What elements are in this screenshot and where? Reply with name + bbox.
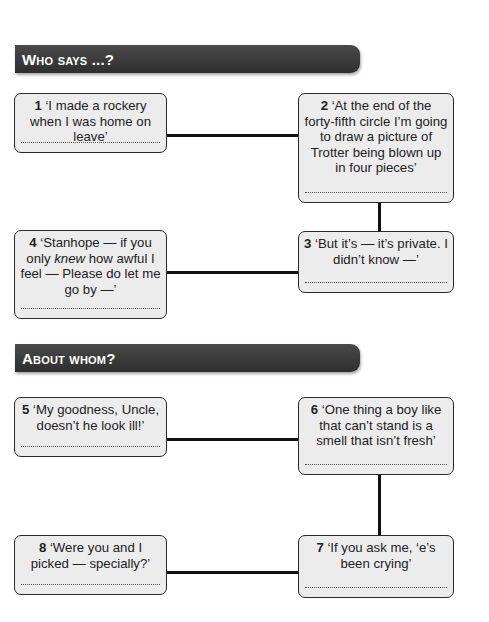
question-quote: ‘If you ask me, ‘e’s been crying’ [327, 540, 435, 571]
connector-2-3 [378, 201, 381, 232]
question-box-7: 7 ‘If you ask me, ‘e’s been crying’ [298, 535, 454, 598]
connector-3-4 [165, 271, 299, 274]
answer-line[interactable] [305, 464, 447, 465]
question-quote: ‘One thing a boy like that can’t stand i… [316, 402, 441, 448]
question-quote: ‘I made a rockery when I was home on lea… [30, 98, 151, 144]
question-number: 5 [22, 402, 29, 417]
question-number: 3 [304, 236, 311, 251]
question-quote: ‘My goodness, Uncle, doesn’t he look ill… [33, 402, 159, 433]
question-number: 8 [39, 540, 46, 555]
answer-line[interactable] [21, 308, 160, 309]
question-quote-italic: knew [54, 251, 85, 266]
question-box-5: 5 ‘My goodness, Uncle, doesn’t he look i… [14, 397, 167, 457]
connector-1-2 [165, 134, 299, 137]
answer-line[interactable] [305, 587, 447, 588]
question-number: 2 [321, 98, 328, 113]
question-number: 1 [34, 98, 41, 113]
section-title: About whom? [22, 350, 116, 367]
question-quote: ‘Were you and I picked — specially?’ [31, 540, 150, 571]
connector-6-7 [378, 473, 381, 536]
connector-7-8 [165, 571, 299, 574]
question-number: 7 [316, 540, 323, 555]
question-box-1: 1 ‘I made a rockery when I was home on l… [14, 93, 167, 153]
answer-line[interactable] [305, 282, 447, 283]
answer-line[interactable] [305, 192, 447, 193]
question-box-4: 4 ‘Stanhope — if you only knew how awful… [14, 230, 167, 319]
question-number: 6 [311, 402, 318, 417]
question-box-6: 6 ‘One thing a boy like that can’t stand… [298, 397, 454, 475]
question-box-8: 8 ‘Were you and I picked — specially?’ [14, 535, 167, 595]
question-box-3: 3 ‘But it’s — it’s private. I didn’t kno… [298, 231, 454, 293]
question-number: 4 [29, 235, 36, 250]
question-box-2: 2 ‘At the end of the forty-fifth circle … [298, 93, 454, 203]
answer-line[interactable] [21, 584, 160, 585]
connector-5-6 [165, 438, 299, 441]
section-header-who-says: Who says ...? [15, 45, 360, 73]
section-header-about-whom: About whom? [15, 344, 360, 372]
answer-line[interactable] [21, 142, 160, 143]
question-quote: ‘But it’s — it’s private. I didn’t know … [315, 236, 448, 267]
answer-line[interactable] [21, 446, 160, 447]
section-title: Who says ...? [22, 51, 114, 68]
